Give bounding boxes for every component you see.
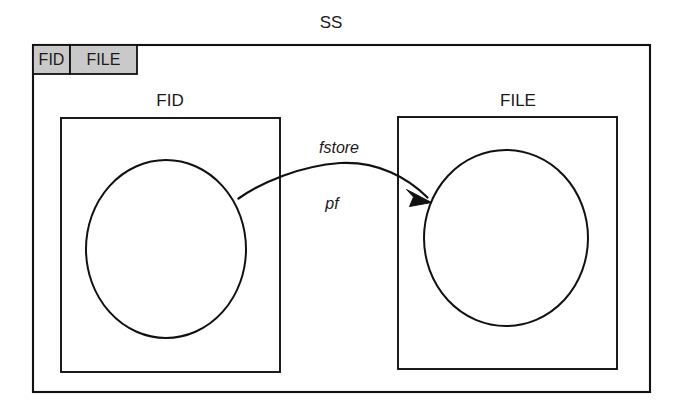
edge-fstore-label: fstore — [319, 139, 359, 156]
box-fid-label: FID — [156, 91, 183, 110]
edge-fstore-path[interactable] — [239, 163, 428, 199]
edge-fstore-param-label: pf — [324, 195, 340, 212]
file-set-circle[interactable] — [424, 150, 588, 326]
tab-file-label: FILE — [87, 51, 121, 68]
schema-diagram: FID FILE SS FID FILE fstore pf — [0, 0, 677, 411]
diagram-canvas: FID FILE SS FID FILE fstore pf — [0, 0, 677, 411]
fid-set-circle[interactable] — [86, 160, 246, 338]
diagram-title: SS — [320, 13, 343, 32]
box-file-label: FILE — [500, 91, 536, 110]
tab-fid-label: FID — [39, 51, 65, 68]
